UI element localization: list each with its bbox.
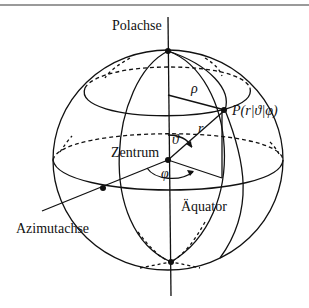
polar-axis: [168, 17, 171, 296]
projection-base: [168, 160, 222, 178]
azimuth-equator-dot: [100, 185, 106, 191]
rho-line: [168, 95, 225, 110]
azimuth-axis-label: Azimutachse: [16, 222, 89, 236]
center-label: Zentrum: [111, 146, 159, 160]
north-pole-dot: [165, 48, 171, 54]
theta-label: ϑ: [172, 133, 179, 147]
point-p-label: P(r|ϑ|φ): [232, 104, 278, 118]
equator-back: [53, 134, 283, 160]
polar-axis-label: Polachse: [112, 19, 162, 33]
latitude-back: [85, 67, 250, 88]
phi-label: φ: [161, 167, 169, 181]
equator-label: Äquator: [181, 200, 227, 214]
point-p-dot: [221, 107, 227, 113]
center-dot: [165, 157, 171, 163]
south-pole-dot: [168, 259, 174, 265]
rho-label: ρ: [191, 82, 198, 96]
azimuth-axis: [42, 160, 168, 211]
r-label: r: [198, 122, 203, 136]
